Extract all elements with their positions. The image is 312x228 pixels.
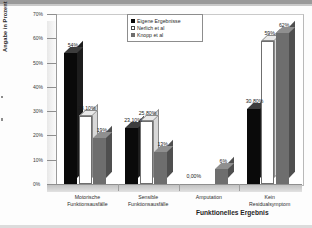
- bar-face: [125, 128, 138, 184]
- y-axis-tick-mark: [47, 63, 56, 64]
- bar-2-3: [154, 152, 167, 184]
- y-axis-tick-mark: [47, 135, 56, 136]
- data-label: 0,00%: [186, 173, 201, 179]
- data-label: 54%: [68, 42, 78, 48]
- data-label: 6%: [220, 158, 228, 164]
- x-axis-separator: [179, 184, 180, 191]
- data-label: 30,80%: [246, 98, 264, 104]
- bar-face: [140, 121, 153, 184]
- y-axis-tick-mark: [47, 14, 56, 15]
- legend: Eigene Ergebnisse Nerlich et al Knopp et…: [127, 14, 203, 42]
- bar-face: [64, 53, 77, 184]
- legend-swatch-icon: [131, 26, 135, 30]
- scan-artifact-top-light: [0, 4, 312, 6]
- bar-3-3: [215, 169, 228, 184]
- data-label: 19%: [97, 127, 107, 133]
- bar-side: [289, 21, 295, 178]
- x-axis-label-line: Kein: [233, 194, 306, 201]
- scan-speck-left-lower: [1, 118, 3, 121]
- legend-label: Knopp et al: [137, 32, 163, 38]
- data-label: 13%: [157, 141, 167, 147]
- y-axis-tick-mark: [47, 184, 56, 185]
- bar-face: [247, 109, 260, 184]
- bar-1-2: [79, 116, 92, 184]
- bar-face: [154, 152, 167, 184]
- bar-face: [79, 116, 92, 184]
- data-label: 62%: [279, 22, 289, 28]
- bar-1-1: [64, 53, 77, 184]
- y-axis-tick-label: 30%: [33, 108, 45, 114]
- y-axis-tick-label: 60%: [33, 35, 45, 41]
- x-axis-label-4: KeinResidualsymptom: [233, 194, 306, 208]
- bar-4-2: [261, 41, 274, 184]
- data-label: 25,80%: [139, 110, 157, 116]
- scan-artifact-bottom: [0, 225, 312, 228]
- y-axis-tick-label: 0%: [33, 181, 45, 187]
- y-axis-tick-label: 70%: [33, 11, 45, 17]
- bar-face: [215, 169, 228, 184]
- bar-face: [93, 138, 106, 184]
- y-axis-tick-label: 50%: [33, 60, 45, 66]
- legend-item-eigene-ergebnisse: Eigene Ergebnisse: [131, 17, 199, 24]
- legend-item-knopp-et-al: Knopp et al: [131, 31, 199, 38]
- legend-label: Nerlich et al: [137, 25, 164, 31]
- data-label: 28,10%: [78, 105, 96, 111]
- y-axis-title: Angabe in Prozent: [2, 1, 8, 52]
- bar-4-1: [247, 109, 260, 184]
- data-label: 23,10%: [124, 117, 142, 123]
- y-axis-tick-label: 20%: [33, 132, 45, 138]
- bar-face: [276, 33, 289, 184]
- legend-label: Eigene Ergebnisse: [137, 18, 181, 24]
- chart-floor: [47, 184, 302, 192]
- x-axis-title: Funktionelles Ergebnis: [196, 209, 269, 216]
- y-axis-tick-mark: [47, 160, 56, 161]
- y-axis-line: [56, 14, 57, 185]
- bar-2-2: [140, 121, 153, 184]
- data-label: 59%: [264, 30, 274, 36]
- legend-item-nerlich-et-al: Nerlich et al: [131, 24, 199, 31]
- bar-1-3: [93, 138, 106, 184]
- x-axis-label-line: Funktionsausfälle: [112, 201, 185, 208]
- bar-2-1: [125, 128, 138, 184]
- y-axis-tick-label: 40%: [33, 84, 45, 90]
- chart-screenshot: Angabe in Prozent Funktionelles Ergebnis…: [0, 0, 312, 228]
- chart-left-wall: [47, 21, 56, 191]
- y-axis-tick-label: 10%: [33, 157, 45, 163]
- bar-4-3: [276, 33, 289, 184]
- y-axis-tick-mark: [47, 87, 56, 88]
- legend-swatch-icon: [131, 33, 135, 37]
- x-axis-separator: [118, 184, 119, 191]
- x-axis-label-line: Residualsymptom: [233, 201, 306, 208]
- y-axis-tick-mark: [47, 38, 56, 39]
- legend-swatch-icon: [131, 19, 135, 23]
- y-axis-tick-mark: [47, 111, 56, 112]
- bar-face: [261, 41, 274, 184]
- scan-speck-left: [1, 96, 3, 98]
- x-axis-separator: [239, 184, 240, 191]
